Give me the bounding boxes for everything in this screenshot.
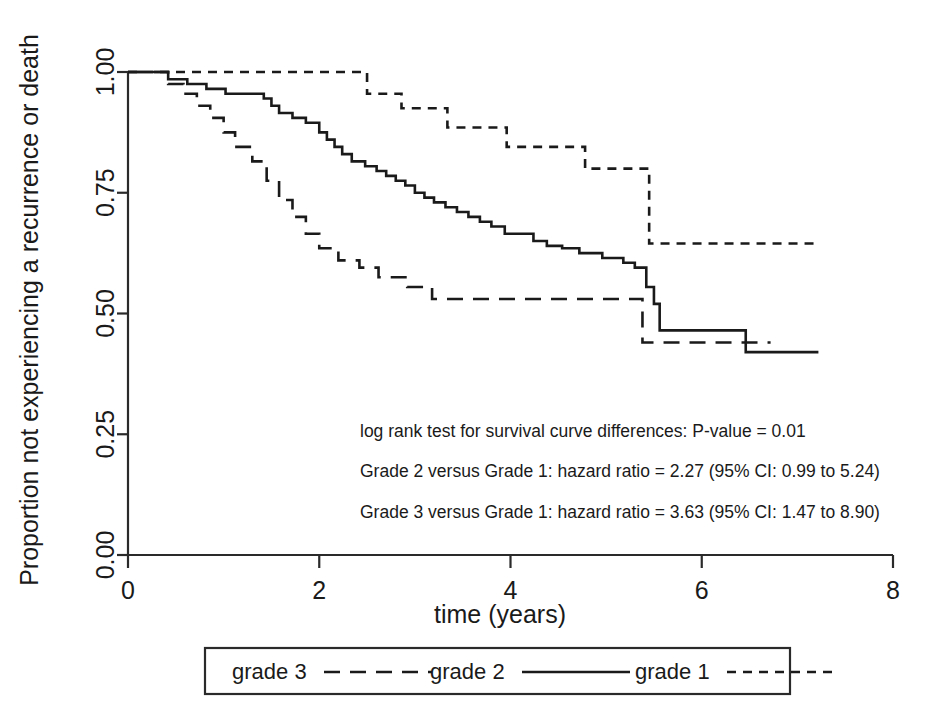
x-tick-label: 0 [121,576,135,604]
curve-grade-2 [128,72,818,352]
y-tick-label: 0.75 [91,168,119,217]
x-tick-label: 2 [312,576,326,604]
annotation-block: log rank test for survival curve differe… [360,421,880,522]
annotation-line-3: Grade 3 versus Grade 1: hazard ratio = 3… [360,502,880,522]
figure-page: 0.000.250.500.751.00 02468 Proportion no… [0,0,942,711]
legend-label-grade-1: grade 1 [635,659,710,684]
y-tick-label: 1.00 [91,48,119,97]
y-tick-label: 0.50 [91,289,119,338]
y-axis-title: Proportion not experiencing a recurrence… [15,34,43,586]
x-axis-ticks: 02468 [121,555,900,604]
x-axis-title: time (years) [434,600,566,628]
y-axis-ticks: 0.000.250.500.751.00 [91,48,128,580]
y-tick-label: 0.25 [91,410,119,459]
survival-curve-figure: 0.000.250.500.751.00 02468 Proportion no… [0,0,942,711]
legend: grade 3grade 2grade 1 [232,659,835,684]
legend-label-grade-3: grade 3 [232,659,307,684]
legend-label-grade-2: grade 2 [430,659,505,684]
survival-curves [128,72,818,352]
x-tick-label: 8 [886,576,900,604]
y-tick-label: 0.00 [91,531,119,580]
annotation-line-2: Grade 2 versus Grade 1: hazard ratio = 2… [360,461,880,481]
x-tick-label: 6 [695,576,709,604]
annotation-line-1: log rank test for survival curve differe… [360,421,806,441]
